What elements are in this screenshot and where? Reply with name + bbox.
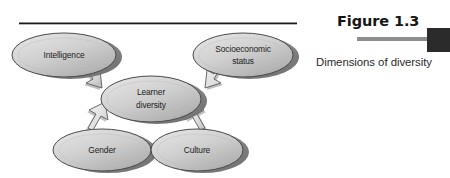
node-intelligence-label: Intelligence <box>43 50 85 60</box>
concept-map-svg: Intelligence Socioeconomic status Gender <box>0 0 310 178</box>
node-culture[interactable]: Culture <box>151 129 249 173</box>
node-intelligence[interactable]: Intelligence <box>12 33 122 79</box>
caption-accent-bar <box>357 37 427 41</box>
figure-number-label: Figure 1.3 <box>337 13 419 29</box>
node-culture-label: Culture <box>184 145 211 155</box>
caption-panel: Figure 1.3 Dimensions of diversity <box>310 0 440 178</box>
node-gender-label: Gender <box>88 145 116 155</box>
node-gender[interactable]: Gender <box>53 129 157 173</box>
diagram-panel: Intelligence Socioeconomic status Gender <box>0 0 310 178</box>
top-rule <box>19 23 297 25</box>
node-learner-diversity[interactable]: Learner diversity <box>101 76 207 124</box>
node-socioeconomic-status-label-line1: Socioeconomic <box>215 44 271 54</box>
node-learner-diversity-label-line2: diversity <box>136 100 167 110</box>
figure-caption: Dimensions of diversity <box>316 56 444 68</box>
node-learner-diversity-label-line1: Learner <box>137 87 165 97</box>
node-socioeconomic-status-label-line2: status <box>232 56 254 66</box>
caption-tab-marker <box>427 28 450 52</box>
